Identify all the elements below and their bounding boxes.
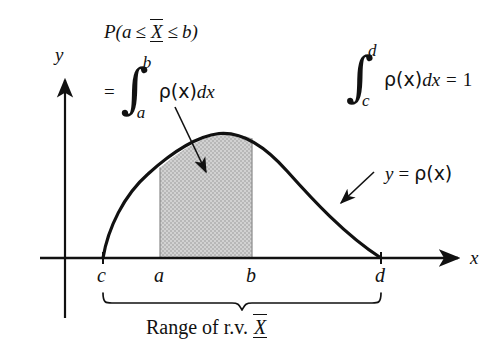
integral-lower-limit-c: c: [362, 92, 370, 109]
range-caption-text: Range of r.v.: [146, 316, 253, 338]
integrand-rho: ρ(x): [159, 82, 197, 101]
probability-statement: P(a≤X≤b): [104, 22, 198, 42]
range-caption: Range of r.v. X: [146, 317, 267, 338]
range-caption-variable: X: [253, 317, 267, 338]
probability-upper-bound: b: [182, 21, 192, 42]
le-sign-1: ≤: [135, 21, 145, 42]
probability-lower-bound: a: [122, 21, 132, 42]
integral-upper-limit-d: d: [368, 42, 377, 59]
curve-label: y = ρ(x): [385, 164, 452, 183]
tick-label-a: a: [154, 265, 164, 285]
random-variable-symbol: X: [150, 22, 164, 42]
tick-label-b: b: [246, 265, 256, 285]
equals-sign: =: [104, 82, 115, 101]
x-axis-label: x: [470, 248, 478, 267]
y-axis-label: y: [55, 45, 63, 64]
range-brace: [103, 293, 381, 310]
curve-label-y: y: [385, 164, 393, 183]
normalization-differential-dx: dx: [422, 70, 440, 89]
integral-lower-limit-a: a: [137, 104, 146, 121]
probability-p: P(: [104, 21, 122, 42]
probability-close-paren: ): [191, 21, 197, 42]
differential-dx: dx: [197, 82, 215, 101]
normalization-equals: =: [446, 70, 457, 89]
curve-label-rho: ρ(x): [414, 164, 452, 183]
curve-label-equals: =: [398, 164, 409, 183]
density-function-figure: y x P(a≤X≤b) = ∫ b a ρ(x) dx ∫ d c ρ(x) …: [0, 0, 499, 364]
normalization-integrand-rho: ρ(x): [384, 70, 422, 89]
probability-integral-expression: = ∫ b a ρ(x) dx: [104, 60, 215, 122]
tick-label-d: d: [375, 265, 385, 285]
normalization-value: 1: [463, 70, 473, 89]
tick-label-c: c: [97, 265, 106, 285]
curve-pointer-arrow: [341, 172, 374, 203]
le-sign-2: ≤: [167, 21, 177, 42]
integral-upper-limit-b: b: [143, 54, 152, 71]
normalization-expression: ∫ d c ρ(x) dx = 1: [346, 48, 472, 110]
